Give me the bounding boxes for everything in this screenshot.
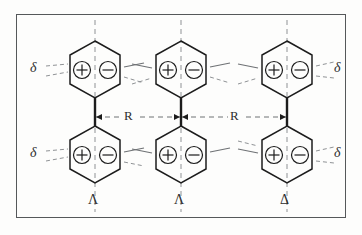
charge-circle-plus-c3-bottom <box>266 147 283 164</box>
delta-label-c3-top: δ <box>334 60 341 76</box>
delta-leader-c1-top <box>46 64 68 76</box>
side-leader-dashed-c2-top-right <box>210 77 230 83</box>
side-leader-c2-top-left <box>132 64 152 68</box>
charge-circle-minus-c3-top <box>292 62 309 79</box>
side-leader-c3-top-left <box>238 64 258 68</box>
side-leader-dashed-c2-top-left <box>132 78 152 84</box>
charge-circle-plus-c2-top <box>160 62 177 79</box>
figure-root: R R δ δ δ δ Λ Λ Δ <box>0 0 362 235</box>
side-leader-c2-bottom-left <box>132 149 152 153</box>
distance-label-left: R <box>124 108 133 124</box>
config-label-1: Λ <box>88 192 98 208</box>
side-leader-dashed-c1-bottom <box>124 162 144 166</box>
side-leader-c1-bottom <box>124 148 144 152</box>
delta-leader-c3-bottom <box>316 147 334 163</box>
distance-label-right: R <box>230 108 239 124</box>
side-leader-c2-bottom-right <box>210 148 230 152</box>
charge-circle-minus-c2-bottom <box>186 147 203 164</box>
charge-circle-plus-c1-top <box>74 62 91 79</box>
config-label-3: Δ <box>280 192 289 208</box>
delta-label-c1-top: δ <box>30 60 37 76</box>
side-leader-dashed-c1-top <box>124 77 144 83</box>
charge-circle-minus-c1-bottom <box>100 147 117 164</box>
charge-circle-minus-c1-top <box>100 62 117 79</box>
charge-circle-plus-c2-bottom <box>160 147 177 164</box>
side-leader-c2-top-right <box>210 63 230 67</box>
charge-circle-minus-c3-bottom <box>292 147 309 164</box>
charge-circle-plus-c3-top <box>266 62 283 79</box>
config-label-2: Λ <box>174 192 184 208</box>
side-leader-c3-bottom-left <box>238 149 258 153</box>
delta-label-c3-bottom: δ <box>334 145 341 161</box>
delta-leader-c1-bottom <box>46 149 68 161</box>
side-leader-dashed-c3-top-left <box>238 78 258 84</box>
delta-leader-c3-top <box>316 62 334 78</box>
side-leader-c1-top <box>124 63 144 67</box>
delta-label-c1-bottom: δ <box>30 145 37 161</box>
charge-circle-minus-c2-top <box>186 62 203 79</box>
side-leader-dashed-c3-bottom-left <box>238 141 258 146</box>
charge-circle-plus-c1-bottom <box>74 147 91 164</box>
